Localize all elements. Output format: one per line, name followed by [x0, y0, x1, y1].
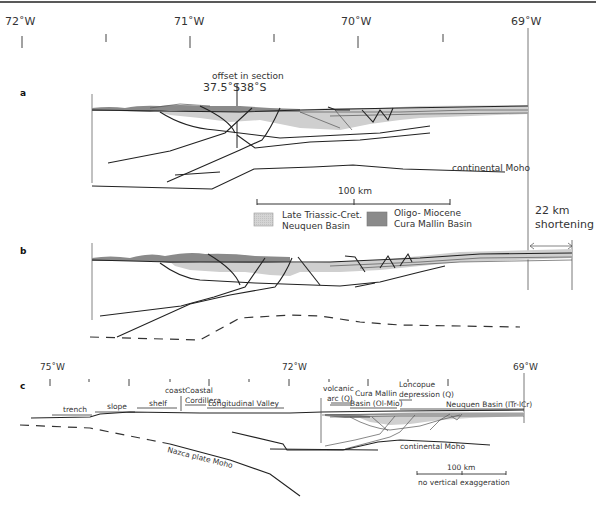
unit-loncopue: Loncopue	[399, 380, 436, 389]
panel-c-label: c	[20, 381, 25, 391]
lon-label-70w: 70˚W	[341, 15, 371, 28]
lon-label-72w: 72˚W	[5, 15, 35, 28]
unit-neuquen-basin: Neuquen Basin (lTr-lCr)	[446, 400, 532, 409]
panel-b-label: b	[20, 246, 27, 256]
unit-arc-q: arc (Q)	[327, 394, 353, 403]
lon-label-71w: 71˚W	[174, 15, 204, 28]
top-longitude-axis: 72˚W 71˚W 70˚W 69˚W	[5, 15, 541, 290]
scale-bar-label: 100 km	[338, 186, 372, 196]
unit-basin-ol-mio: Basin (Ol-Mio)	[350, 399, 403, 408]
unit-cura-mallin: Cura Mallin	[355, 389, 397, 398]
legend-cura-line1: Oligo- Miocene	[394, 208, 462, 218]
lat-right-label: 38˚S	[240, 81, 266, 94]
c-lon-label-72w: 72˚W	[282, 362, 307, 372]
panel-c: c 75˚W 72˚W 69˚W trench slope shelf coas…	[20, 362, 538, 496]
geologic-cross-section-figure: 72˚W 71˚W 70˚W 69˚W a offset in section …	[0, 0, 596, 518]
panel-a-moho-label: continental Moho	[452, 163, 531, 173]
legend-neuquen-line1: Late Triassic-Cret.	[282, 210, 362, 220]
shortening-label: shortening	[535, 218, 594, 231]
unit-longitudinal-valley: Longitudinal Valley	[208, 399, 280, 408]
unit-slope: slope	[107, 402, 127, 411]
legend-swatch-cura-mallin	[367, 212, 387, 226]
unit-volcanic: volcanic	[323, 384, 354, 393]
panel-c-moho-label: continental Moho	[400, 442, 465, 451]
shortening-annotation: 22 km shortening	[530, 204, 594, 290]
panel-c-scale-label: 100 km	[447, 463, 475, 472]
panel-a: a offset in section 37.5˚S 38˚S continen…	[20, 71, 531, 189]
offset-label: offset in section	[212, 71, 284, 81]
legend-cura-line2: Cura Mallin Basin	[394, 219, 472, 229]
unit-coastal: Coastal	[185, 386, 213, 395]
legend-swatch-neuquen	[254, 213, 273, 226]
scale-bar: 100 km	[257, 186, 450, 205]
unit-shelf: shelf	[149, 399, 167, 408]
unit-trench: trench	[63, 405, 87, 414]
lat-left-label: 37.5˚S	[203, 81, 240, 94]
panel-c-scale-note: no vertical exaggeration	[418, 478, 510, 487]
nazca-moho-label: Nazca plate Moho	[167, 445, 235, 470]
panel-b: b	[20, 243, 572, 340]
legend: Late Triassic-Cret. Neuquen Basin Oligo-…	[254, 208, 472, 231]
unit-depression-q: depression (Q)	[399, 390, 454, 399]
legend-neuquen-line2: Neuquen Basin	[282, 221, 350, 231]
unit-coast: coast	[165, 386, 185, 395]
c-lon-label-69w: 69˚W	[513, 362, 538, 372]
panel-a-label: a	[20, 88, 26, 98]
lon-label-69w: 69˚W	[511, 15, 541, 28]
shortening-amount: 22 km	[535, 204, 570, 217]
c-lon-label-75w: 75˚W	[40, 362, 65, 372]
